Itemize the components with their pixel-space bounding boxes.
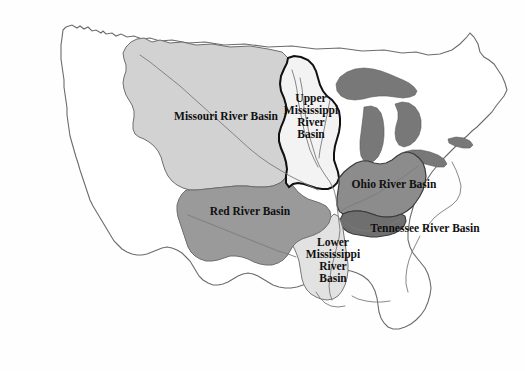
river-basin-map: Missouri River Basin Upper Mississippi R… (0, 0, 525, 371)
us-basin-map-svg (0, 0, 525, 371)
